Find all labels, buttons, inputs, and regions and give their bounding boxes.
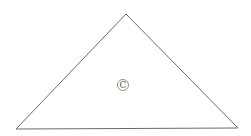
triangle-diagram: C xyxy=(0,0,251,136)
triangle-shape xyxy=(16,14,238,129)
label-c: C xyxy=(120,80,127,90)
circled-label: C xyxy=(118,80,129,91)
